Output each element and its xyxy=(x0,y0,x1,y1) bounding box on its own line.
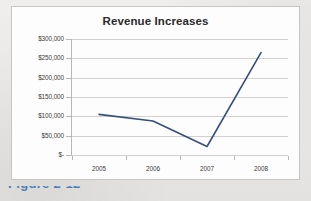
figure-page: Revenue Increases $-$50,000$100,000$150,… xyxy=(0,0,311,201)
y-axis-tick xyxy=(66,155,71,156)
y-axis-tick xyxy=(66,39,71,40)
y-axis-tick xyxy=(66,136,71,137)
figure-caption-text: Figure 2-12 xyxy=(8,186,208,190)
chart-frame: Revenue Increases $-$50,000$100,000$150,… xyxy=(11,6,300,180)
y-axis-tick xyxy=(66,97,71,98)
y-axis-tick xyxy=(66,58,71,59)
y-axis-tick xyxy=(66,78,71,79)
series-line-revenue xyxy=(12,7,301,181)
y-axis-tick xyxy=(66,116,71,117)
figure-caption: Figure 2-12 xyxy=(8,186,208,201)
